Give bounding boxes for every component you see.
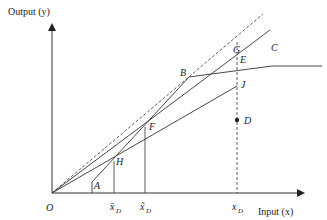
label-G: G: [233, 44, 240, 55]
tick-x-D: x D: [231, 201, 243, 215]
tick-xbar-D: x̄ D: [109, 201, 121, 215]
label-B: B: [180, 67, 186, 78]
dashed-ray: [52, 14, 263, 193]
svg-text:D: D: [145, 207, 151, 215]
label-J: J: [241, 79, 246, 90]
tick-xtilde-D: x̃ D: [139, 201, 151, 215]
svg-text:x̃: x̃: [139, 201, 145, 212]
svg-text:D: D: [115, 207, 121, 215]
label-E: E: [239, 54, 246, 65]
svg-text:x̄: x̄: [109, 201, 115, 212]
label-F: F: [148, 121, 156, 132]
x-axis-label: Input (x): [258, 206, 293, 218]
origin-label: O: [46, 202, 53, 213]
label-C: C: [271, 42, 278, 53]
ray-OJ: [52, 86, 237, 193]
production-frontier-diagram: Output (y) Input (x) O A B C D E F G H J…: [0, 0, 327, 220]
point-D: [235, 118, 239, 122]
label-H: H: [115, 156, 124, 167]
svg-text:x: x: [231, 201, 237, 212]
y-axis-label: Output (y): [8, 6, 50, 18]
svg-text:D: D: [237, 207, 243, 215]
label-D: D: [243, 115, 252, 126]
label-A: A: [93, 180, 101, 191]
